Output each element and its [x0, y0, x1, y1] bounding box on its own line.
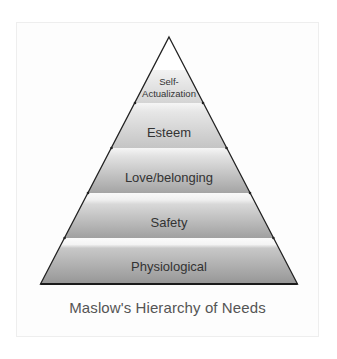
- pyramid-apex: [151, 37, 188, 70]
- label-self-line1: Self-: [159, 76, 179, 87]
- label-safety: Safety: [151, 215, 188, 230]
- diagram-caption: Maslow's Hierarchy of Needs: [16, 299, 319, 316]
- label-physiological: Physiological: [131, 259, 207, 274]
- label-self-line2: Actualization: [142, 88, 196, 99]
- label-love-belonging: Love/belonging: [125, 170, 213, 185]
- label-esteem: Esteem: [147, 125, 191, 140]
